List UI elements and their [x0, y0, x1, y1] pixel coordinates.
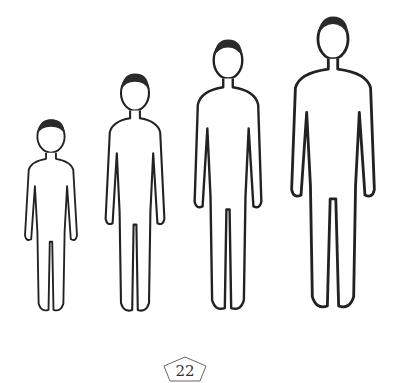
figure-stage-3	[188, 38, 268, 316]
figure-outline-icon	[20, 118, 82, 316]
figure-stage-2	[100, 72, 170, 317]
page-number-text: 22	[162, 362, 208, 380]
figure-outline-icon	[100, 72, 170, 317]
page-number: 22	[162, 356, 208, 382]
figure-stage-1	[20, 118, 82, 316]
figure-outline-icon	[188, 38, 268, 316]
figure-outline-icon	[286, 14, 380, 316]
figure-stage-4	[286, 14, 380, 316]
